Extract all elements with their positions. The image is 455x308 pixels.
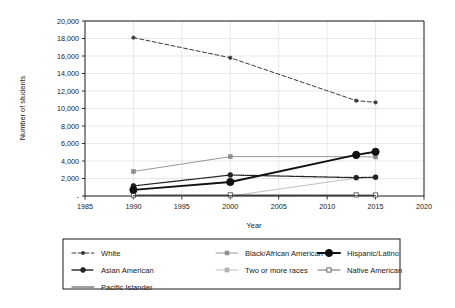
legend-label-pacific-islander: Pacific Islander	[101, 283, 153, 292]
data-point-marker	[354, 193, 358, 197]
x-tick-label: 1990	[125, 202, 141, 211]
y-tick-label: -	[77, 192, 80, 201]
x-tick-label: 2020	[416, 202, 432, 211]
legend-label-two-or-more-races: Two or more races	[245, 266, 308, 275]
y-axis-ticks: -2,0004,0006,0008,00010,00012,00014,0001…	[57, 17, 85, 201]
y-tick-label: 2,000	[61, 174, 79, 183]
data-point-marker	[374, 101, 377, 104]
data-point-marker	[355, 99, 358, 102]
data-point-marker	[132, 170, 136, 174]
legend-label-black-african-american: Black/African American	[245, 249, 323, 258]
legend-box	[63, 239, 400, 289]
data-point-marker	[354, 175, 359, 180]
data-point-marker	[373, 193, 377, 197]
legend-label-native-american: Native American	[347, 266, 402, 275]
x-tick-label: 2005	[271, 202, 287, 211]
data-point-marker	[81, 251, 84, 254]
y-tick-label: 14,000	[57, 69, 79, 78]
y-tick-label: 16,000	[57, 52, 79, 61]
data-point-marker	[228, 173, 233, 178]
x-tick-label: 2010	[319, 202, 335, 211]
data-point-marker	[81, 268, 86, 273]
y-tick-label: 8,000	[61, 122, 79, 131]
line-chart: -2,0004,0006,0008,00010,00012,00014,0001…	[0, 0, 455, 308]
data-point-marker	[225, 251, 229, 255]
data-point-marker	[225, 268, 229, 272]
chart-container: -2,0004,0006,0008,00010,00012,00014,0001…	[0, 0, 455, 308]
legend-label-hispanic-latino: Hispanic/Latino	[347, 249, 399, 258]
data-point-marker	[229, 56, 232, 59]
data-point-marker	[353, 151, 360, 158]
x-tick-label: 1985	[77, 202, 93, 211]
y-tick-label: 18,000	[57, 34, 79, 43]
legend-item-hispanic-latino[interactable]: Hispanic/Latino	[318, 249, 399, 258]
y-tick-label: 4,000	[61, 157, 79, 166]
y-axis-title: Number of students	[18, 75, 27, 140]
x-tick-label: 2015	[368, 202, 384, 211]
x-axis-title: Year	[247, 221, 262, 230]
data-point-marker	[327, 268, 331, 272]
y-tick-label: 20,000	[57, 17, 79, 26]
x-axis-ticks: 19851990199520002005201020152020	[77, 196, 432, 211]
y-tick-label: 10,000	[57, 104, 79, 113]
data-point-marker	[373, 175, 378, 180]
y-tick-label: 6,000	[61, 139, 79, 148]
data-point-marker	[228, 193, 232, 197]
legend-label-white: White	[101, 249, 120, 258]
data-point-marker	[227, 178, 234, 185]
x-tick-label: 2000	[222, 202, 238, 211]
y-tick-label: 12,000	[57, 87, 79, 96]
data-point-marker	[132, 36, 135, 39]
x-tick-label: 1995	[174, 202, 190, 211]
legend-label-asian-american: Asian American	[101, 266, 154, 275]
data-point-marker	[372, 148, 379, 155]
data-point-marker	[325, 249, 332, 256]
data-point-marker	[228, 155, 232, 159]
data-point-marker	[130, 186, 137, 193]
